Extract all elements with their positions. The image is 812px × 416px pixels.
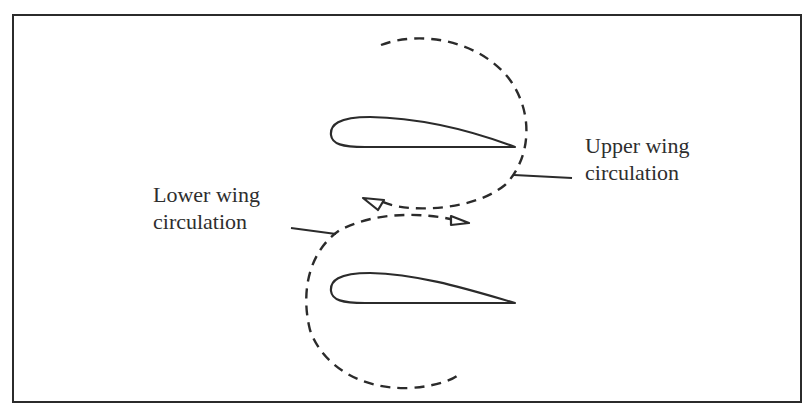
lower-label-line1: Lower wing [153,181,260,208]
arrowhead-left-icon [363,198,384,210]
lower-leader-line [291,228,336,234]
upper-label-line2: circulation [585,159,689,186]
lower-label-line2: circulation [153,208,260,235]
upper-wing-circulation-label: Upper wing circulation [585,132,689,186]
lower-airfoil [331,273,515,303]
upper-circulation [378,38,526,208]
lower-wing-circulation-label: Lower wing circulation [153,181,260,235]
upper-leader-line [514,175,572,178]
lower-circulation [306,215,458,388]
diagram-canvas [0,0,812,416]
upper-airfoil [331,117,515,147]
arrowhead-right-icon [451,216,469,225]
upper-label-line1: Upper wing [585,132,689,159]
